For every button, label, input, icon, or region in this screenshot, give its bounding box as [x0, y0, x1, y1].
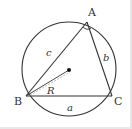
side-a-label: a — [67, 102, 73, 113]
diagram-frame: A B C a b c R — [0, 0, 132, 129]
side-c-label: c — [46, 47, 52, 58]
radius-label: R — [46, 85, 55, 96]
side-b-label: b — [103, 52, 109, 63]
side-c-line — [26, 22, 87, 96]
vertex-a-label: A — [87, 6, 97, 19]
circumcircle-diagram: A B C a b c R — [0, 0, 132, 129]
vertex-c-label: C — [114, 95, 122, 108]
vertex-b-label: B — [14, 95, 22, 108]
center-point — [67, 68, 71, 72]
